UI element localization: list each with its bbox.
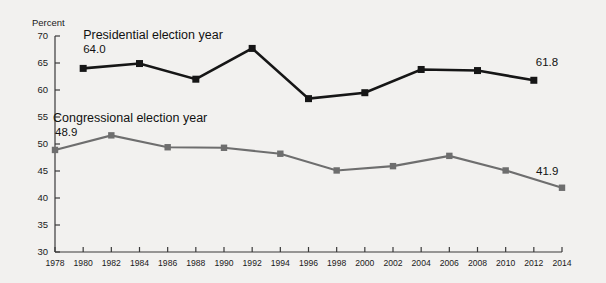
y-tick-label-40: 40	[37, 192, 48, 203]
data-point-congressional-2002	[390, 163, 396, 169]
x-tick-label-2014: 2014	[552, 258, 571, 268]
x-tick-label-1988: 1988	[186, 258, 205, 268]
x-tick-label-2012: 2012	[524, 258, 543, 268]
x-tick-label-2004: 2004	[412, 258, 431, 268]
y-tick-label-65: 65	[37, 57, 48, 68]
x-tick-label-1994: 1994	[271, 258, 290, 268]
y-tick-label-30: 30	[37, 246, 48, 257]
y-tick-label-50: 50	[37, 138, 48, 149]
data-point-congressional-1994	[277, 151, 283, 157]
x-tick-label-1980: 1980	[74, 258, 93, 268]
presidential-start-value: 64.0	[83, 43, 105, 55]
y-tick-label-60: 60	[37, 84, 48, 95]
x-tick-label-1998: 1998	[327, 258, 346, 268]
data-point-congressional-1978	[52, 147, 58, 153]
congressional-end-value: 41.9	[536, 165, 558, 177]
x-tick-label-1996: 1996	[299, 258, 318, 268]
x-tick-label-1982: 1982	[102, 258, 121, 268]
x-tick-label-1984: 1984	[130, 258, 149, 268]
series-line-congressional	[55, 135, 562, 187]
x-tick-label-2008: 2008	[468, 258, 487, 268]
data-point-presidential-1980	[80, 65, 87, 72]
presidential-series-label: Presidential election year	[83, 28, 223, 42]
x-tick-label-1978: 1978	[45, 258, 64, 268]
x-tick-label-1990: 1990	[214, 258, 233, 268]
presidential-end-value: 61.8	[536, 56, 558, 68]
data-point-congressional-2014	[559, 185, 565, 191]
x-tick-label-2002: 2002	[383, 258, 402, 268]
data-point-presidential-2000	[361, 89, 368, 96]
series-line-presidential	[83, 48, 534, 98]
election-turnout-line-chart: 303540455055606570Percent197819801982198…	[0, 0, 606, 283]
y-tick-label-55: 55	[37, 111, 48, 122]
data-point-congressional-1982	[108, 132, 114, 138]
y-tick-label-45: 45	[37, 165, 48, 176]
data-point-presidential-1988	[192, 76, 199, 83]
data-point-congressional-1986	[164, 144, 170, 150]
y-tick-label-70: 70	[37, 30, 48, 41]
chart-container: 303540455055606570Percent197819801982198…	[0, 0, 606, 283]
congressional-series-label: Congressional election year	[53, 111, 207, 125]
data-point-congressional-1998	[333, 167, 339, 173]
x-tick-label-2006: 2006	[440, 258, 459, 268]
x-tick-label-2010: 2010	[496, 258, 515, 268]
data-point-presidential-2012	[530, 77, 537, 84]
data-point-presidential-2008	[474, 67, 481, 74]
data-point-presidential-1992	[249, 45, 256, 52]
data-point-presidential-2004	[418, 66, 425, 73]
x-tick-label-2000: 2000	[355, 258, 374, 268]
data-point-presidential-1996	[305, 95, 312, 102]
data-point-congressional-1990	[221, 145, 227, 151]
data-point-presidential-1984	[136, 60, 143, 67]
x-tick-label-1992: 1992	[243, 258, 262, 268]
data-point-congressional-2010	[502, 167, 508, 173]
y-axis-title: Percent	[32, 17, 65, 28]
data-point-congressional-2006	[446, 153, 452, 159]
congressional-start-value: 48.9	[55, 126, 77, 138]
x-tick-label-1986: 1986	[158, 258, 177, 268]
y-tick-label-35: 35	[37, 219, 48, 230]
